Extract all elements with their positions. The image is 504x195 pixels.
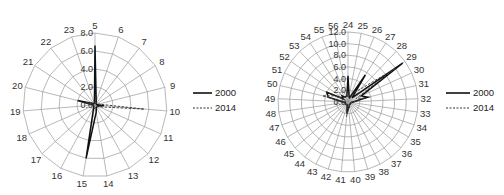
category-label: 29 bbox=[406, 51, 417, 62]
category-label: 38 bbox=[378, 166, 389, 177]
legend-label-2014: 2014 bbox=[473, 102, 494, 113]
grid-spoke bbox=[95, 105, 148, 154]
category-label: 27 bbox=[385, 31, 396, 42]
category-label: 33 bbox=[420, 108, 431, 119]
category-label: 43 bbox=[307, 166, 318, 177]
category-label: 53 bbox=[289, 40, 300, 51]
legend-label-2000: 2000 bbox=[473, 87, 494, 98]
radial-tick-label: 0.0 bbox=[80, 100, 93, 110]
radial-tick-label: 8.0 bbox=[80, 28, 93, 38]
category-label: 49 bbox=[265, 93, 276, 104]
radial-tick-label: 2.0 bbox=[333, 85, 346, 95]
category-label: 48 bbox=[266, 108, 277, 119]
category-label: 17 bbox=[31, 154, 42, 165]
category-label: 23 bbox=[64, 24, 75, 35]
category-label: 40 bbox=[350, 174, 361, 185]
category-label: 21 bbox=[23, 56, 34, 67]
grid-spoke bbox=[95, 37, 118, 105]
radar-chart-2: 2425262728293031323334353637383940414243… bbox=[265, 19, 431, 186]
category-label: 54 bbox=[301, 31, 312, 42]
category-label: 7 bbox=[141, 36, 146, 47]
category-label: 45 bbox=[284, 148, 295, 159]
category-label: 22 bbox=[41, 36, 52, 47]
category-label: 31 bbox=[419, 78, 430, 89]
category-label: 36 bbox=[402, 148, 413, 159]
category-label: 42 bbox=[321, 171, 332, 182]
category-label: 41 bbox=[335, 174, 346, 185]
legend-label-2000: 2000 bbox=[215, 87, 236, 98]
category-label: 37 bbox=[391, 158, 402, 169]
radar-charts: 5678910111213141516171819202122230.02.04… bbox=[0, 0, 504, 195]
radial-tick-label: 4.0 bbox=[80, 64, 93, 74]
legend-chart-2: 2000 2014 bbox=[446, 87, 494, 113]
category-label: 28 bbox=[397, 40, 408, 51]
category-label: 10 bbox=[169, 106, 180, 117]
grid-spoke bbox=[295, 102, 348, 148]
radial-tick-label: 2.0 bbox=[80, 82, 93, 92]
radial-tick-label: 10.0 bbox=[328, 39, 346, 49]
category-label: 46 bbox=[275, 136, 286, 147]
category-label: 30 bbox=[414, 64, 425, 75]
radial-tick-label: 0.0 bbox=[333, 97, 346, 107]
grid-spoke bbox=[95, 66, 155, 105]
grid-spoke bbox=[348, 102, 401, 148]
category-label: 5 bbox=[92, 20, 97, 31]
legend-chart-1: 2000 2014 bbox=[193, 87, 236, 113]
category-label: 8 bbox=[159, 56, 164, 67]
radial-tick-label: 4.0 bbox=[333, 74, 346, 84]
radar-chart-1: 5678910111213141516171819202122230.02.04… bbox=[10, 20, 180, 190]
category-label: 6 bbox=[118, 24, 123, 35]
grid-spoke bbox=[42, 105, 95, 154]
radial-tick-label: 8.0 bbox=[333, 50, 346, 60]
category-label: 25 bbox=[358, 20, 369, 31]
category-label: 9 bbox=[170, 80, 175, 91]
category-label: 39 bbox=[365, 171, 376, 182]
category-label: 19 bbox=[10, 106, 21, 117]
grid-spoke bbox=[95, 87, 165, 105]
radial-tick-label: 6.0 bbox=[333, 62, 346, 72]
legend-label-2014: 2014 bbox=[215, 102, 236, 113]
category-label: 47 bbox=[269, 122, 280, 133]
category-label: 50 bbox=[267, 78, 278, 89]
category-label: 51 bbox=[272, 64, 283, 75]
category-label: 13 bbox=[128, 170, 139, 181]
category-label: 52 bbox=[279, 51, 290, 62]
category-label: 32 bbox=[421, 93, 432, 104]
category-label: 15 bbox=[77, 178, 88, 189]
category-label: 20 bbox=[12, 80, 23, 91]
radial-tick-label: 12.0 bbox=[328, 27, 346, 37]
category-label: 26 bbox=[372, 24, 383, 35]
category-label: 18 bbox=[16, 132, 27, 143]
radial-tick-label: 6.0 bbox=[80, 46, 93, 56]
grid-spoke bbox=[348, 51, 396, 102]
category-label: 16 bbox=[52, 170, 63, 181]
category-label: 12 bbox=[149, 154, 160, 165]
category-label: 11 bbox=[163, 132, 173, 143]
category-label: 34 bbox=[416, 122, 427, 133]
category-label: 44 bbox=[295, 158, 306, 169]
category-label: 14 bbox=[103, 178, 114, 189]
category-label: 35 bbox=[410, 136, 421, 147]
category-label: 55 bbox=[314, 24, 325, 35]
